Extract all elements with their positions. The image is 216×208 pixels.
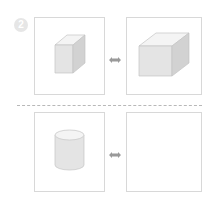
blank-answer-box[interactable]: [126, 112, 202, 192]
double-arrow-icon: [109, 57, 121, 63]
question-number-badge: 2: [14, 18, 28, 32]
panel-cylinder: [34, 112, 105, 192]
double-arrow-icon: [109, 152, 121, 158]
cube-icon: [35, 18, 104, 94]
cuboid-icon: [127, 18, 201, 94]
cylinder-icon: [35, 113, 104, 191]
dashed-divider: [17, 105, 202, 106]
panel-cuboid: [126, 17, 202, 95]
panel-cube: [34, 17, 105, 95]
